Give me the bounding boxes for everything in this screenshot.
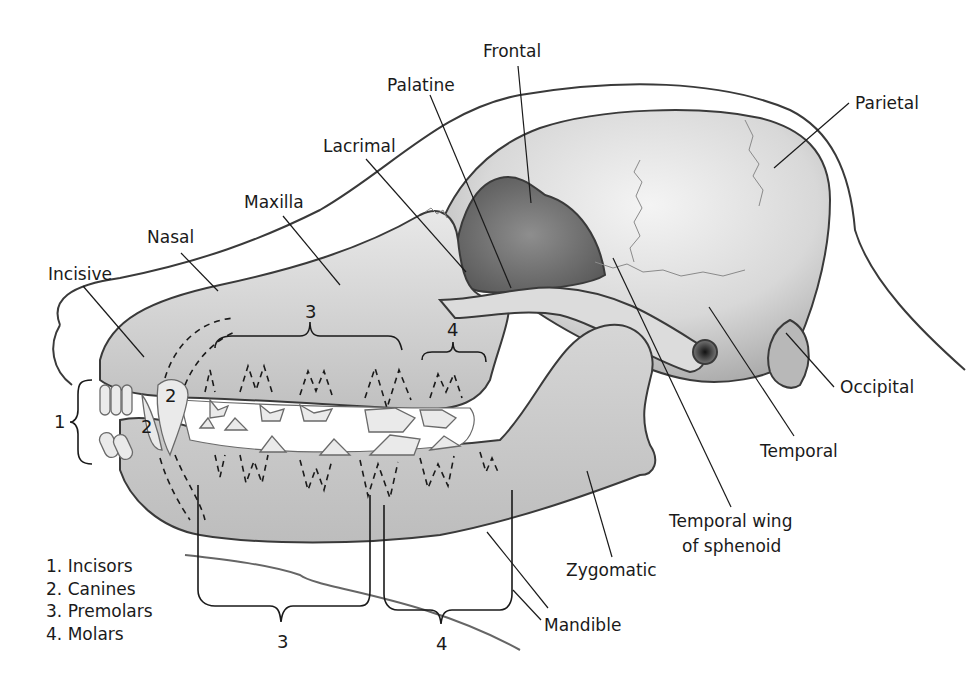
legend-item-premolars: 3. Premolars (46, 600, 153, 623)
legend-label: Canines (68, 579, 136, 599)
lower-molars-number: 4 (436, 633, 447, 654)
label-nasal: Nasal (147, 227, 194, 247)
legend-item-incisors: 1. Incisors (46, 555, 153, 578)
incisors-number: 1 (54, 411, 65, 432)
label-palatine: Palatine (387, 75, 455, 95)
leader-mandible-1 (487, 532, 548, 608)
upper-canine-number: 2 (165, 385, 176, 406)
incisor-brace (70, 380, 92, 464)
tooth-legend: 1. Incisors 2. Canines 3. Premolars 4. M… (46, 555, 153, 645)
lower-canine-number: 2 (141, 416, 152, 437)
legend-number: 2. (46, 579, 62, 599)
label-incisive: Incisive (48, 264, 112, 284)
label-temporal-wing-line2: of sphenoid (682, 536, 781, 556)
label-zygomatic: Zygomatic (566, 560, 657, 580)
label-parietal: Parietal (855, 93, 919, 113)
upper-premolars-number: 3 (305, 301, 316, 322)
label-temporal-wing-line1: Temporal wing (668, 511, 792, 531)
label-mandible: Mandible (544, 615, 621, 635)
label-lacrimal: Lacrimal (323, 136, 396, 156)
legend-item-molars: 4. Molars (46, 623, 153, 646)
legend-number: 1. (46, 556, 62, 576)
legend-label: Premolars (68, 601, 153, 621)
label-frontal: Frontal (483, 41, 541, 61)
external-auditory-meatus (693, 340, 717, 364)
legend-number: 3. (46, 601, 62, 621)
label-maxilla: Maxilla (244, 192, 304, 212)
legend-number: 4. (46, 624, 62, 644)
upper-molars-number: 4 (447, 319, 458, 340)
label-temporal: Temporal (759, 441, 838, 461)
label-occipital: Occipital (840, 377, 914, 397)
nose-outline (53, 325, 72, 385)
legend-item-canines: 2. Canines (46, 578, 153, 601)
legend-label: Molars (68, 624, 124, 644)
lower-premolars-number: 3 (277, 631, 288, 652)
throat-outline (185, 555, 520, 650)
legend-label: Incisors (68, 556, 133, 576)
